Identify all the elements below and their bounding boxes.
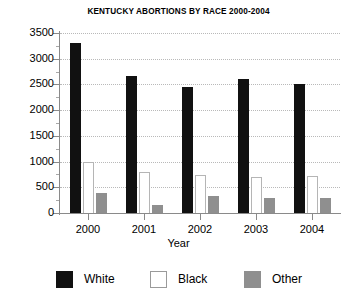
x-axis-tick bbox=[256, 213, 257, 220]
x-axis-tick-label-2000: 2000 bbox=[58, 223, 118, 235]
y-axis-tick-label: 500 bbox=[8, 181, 54, 192]
bar-2000-black bbox=[83, 162, 94, 213]
y-axis-tick-label: 2500 bbox=[8, 78, 54, 89]
bar-2004-white bbox=[294, 84, 305, 213]
bar-2004-black bbox=[307, 176, 318, 213]
x-axis-tick-label-2004: 2004 bbox=[282, 223, 342, 235]
bar-2002-white bbox=[182, 87, 193, 214]
legend-label-white: White bbox=[84, 272, 115, 286]
legend-item-black[interactable]: Black bbox=[150, 268, 207, 290]
x-axis-title: Year bbox=[0, 237, 357, 249]
bar-2000-other bbox=[96, 193, 107, 213]
y-axis-tick-label: 3000 bbox=[8, 53, 54, 64]
x-axis-tick bbox=[312, 213, 313, 220]
x-axis-tick bbox=[200, 213, 201, 220]
bar-2001-other bbox=[152, 205, 163, 213]
legend-item-white[interactable]: White bbox=[56, 268, 115, 290]
bar-2003-white bbox=[238, 79, 249, 213]
y-axis-tick-label: 1500 bbox=[8, 130, 54, 141]
chart-title: KENTUCKY ABORTIONS BY RACE 2000-2004 bbox=[0, 7, 357, 16]
bar-2002-other bbox=[208, 196, 219, 213]
bar-2002-black bbox=[195, 175, 206, 213]
legend-swatch-icon-black bbox=[150, 271, 167, 288]
plot-area bbox=[60, 33, 340, 213]
bar-2003-other bbox=[264, 198, 275, 213]
x-axis-tick-label-2003: 2003 bbox=[226, 223, 286, 235]
bar-2001-black bbox=[139, 172, 150, 213]
bar-2004-other bbox=[320, 198, 331, 213]
bar-2001-white bbox=[126, 76, 137, 213]
x-axis-tick bbox=[144, 213, 145, 220]
legend-swatch-icon-white bbox=[56, 271, 73, 288]
legend-label-other: Other bbox=[272, 272, 302, 286]
y-axis-tick-label: 3500 bbox=[8, 27, 54, 38]
bar-2003-black bbox=[251, 177, 262, 213]
y-axis-tick-label: 1000 bbox=[8, 156, 54, 167]
bar-2000-white bbox=[70, 43, 81, 213]
y-axis-tick-label: 0 bbox=[8, 207, 54, 218]
x-axis-tick bbox=[88, 213, 89, 220]
legend-item-other[interactable]: Other bbox=[244, 268, 302, 290]
x-axis-tick-label-2002: 2002 bbox=[170, 223, 230, 235]
legend-swatch-icon-other bbox=[244, 271, 261, 288]
chart-legend: WhiteBlackOther bbox=[0, 268, 357, 294]
bar-chart: KENTUCKY ABORTIONS BY RACE 2000-2004 050… bbox=[0, 0, 357, 300]
legend-label-black: Black bbox=[178, 272, 207, 286]
x-axis-tick-label-2001: 2001 bbox=[114, 223, 174, 235]
y-axis-tick-label: 2000 bbox=[8, 104, 54, 115]
